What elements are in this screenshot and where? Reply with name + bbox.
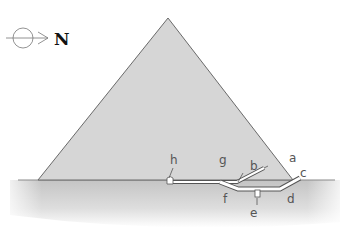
label-g: g — [219, 154, 227, 166]
pyramid — [38, 18, 293, 180]
label-a: a — [289, 152, 296, 164]
label-h: h — [170, 154, 178, 166]
north-label: N — [54, 31, 70, 48]
label-b: b — [250, 160, 258, 172]
label-e: e — [250, 207, 257, 219]
label-c: c — [300, 167, 307, 179]
ground — [0, 178, 349, 232]
diagram-canvas: N h g b a c d e f — [0, 0, 349, 232]
north-arrow-icon — [6, 28, 48, 48]
label-d: d — [287, 193, 295, 205]
label-f: f — [223, 193, 227, 205]
